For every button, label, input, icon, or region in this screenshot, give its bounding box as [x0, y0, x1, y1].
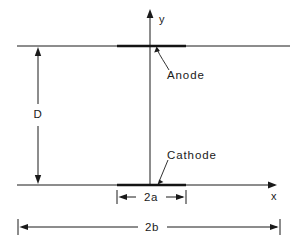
- dimension-2a-right-arrowhead: [176, 194, 185, 200]
- electrode-geometry-diagram: x y Anode Cathode D 2a: [0, 0, 298, 249]
- x-axis-label: x: [271, 190, 277, 202]
- dimension-2b: 2b: [18, 219, 280, 235]
- anode-leader-arrowhead: [154, 47, 160, 53]
- dimension-2a-label: 2a: [144, 191, 158, 203]
- y-axis-arrowhead: [147, 9, 154, 18]
- dimension-2a: 2a: [117, 190, 186, 204]
- dimension-D-bottom-arrowhead: [35, 175, 41, 184]
- anode-label: Anode: [167, 69, 205, 81]
- dimension-2b-label: 2b: [145, 221, 159, 233]
- cathode-label: Cathode: [167, 149, 217, 161]
- dimension-2b-left-arrowhead: [19, 224, 28, 230]
- anode-leader-line: [157, 50, 169, 70]
- x-axis-arrowhead: [268, 182, 277, 189]
- dimension-2b-right-arrowhead: [270, 224, 279, 230]
- cathode-leader-line: [160, 160, 169, 181]
- dimension-2a-left-arrowhead: [118, 194, 127, 200]
- dimension-D-label: D: [34, 108, 43, 120]
- y-axis-label: y: [159, 13, 165, 25]
- diagram-canvas: x y Anode Cathode D 2a: [0, 0, 298, 249]
- dimension-D: D: [34, 47, 43, 184]
